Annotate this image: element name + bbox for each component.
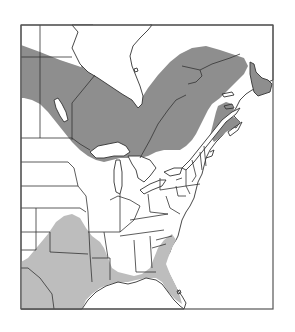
lake-michigan (114, 160, 122, 194)
map-content (21, 25, 273, 309)
range-map (0, 0, 295, 332)
